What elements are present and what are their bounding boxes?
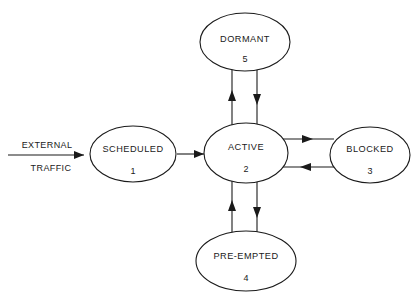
preempted-number: 4 bbox=[243, 273, 248, 283]
active-preempted-arrowhead bbox=[253, 207, 261, 218]
scheduled-label: SCHEDULED bbox=[102, 144, 163, 154]
scheduled-number: 1 bbox=[130, 166, 135, 176]
blocked-number: 3 bbox=[367, 166, 372, 176]
node-dormant[interactable]: DORMANT 5 bbox=[200, 13, 290, 71]
dormant-label: DORMANT bbox=[220, 34, 270, 44]
active-label: ACTIVE bbox=[228, 142, 264, 152]
preempted-active-arrowhead bbox=[228, 200, 236, 211]
edge-dormant-to-active bbox=[253, 69, 261, 126]
edge-blocked-to-active bbox=[283, 163, 334, 171]
external-traffic-label-line1: EXTERNAL bbox=[22, 140, 73, 150]
node-active[interactable]: ACTIVE 2 bbox=[204, 123, 288, 183]
active-ellipse[interactable] bbox=[204, 123, 288, 183]
blocked-active-arrowhead bbox=[300, 163, 311, 171]
external-traffic-label-line2: TRAFFIC bbox=[31, 163, 72, 173]
node-blocked[interactable]: BLOCKED 3 bbox=[330, 127, 410, 183]
edge-preempted-to-active bbox=[228, 181, 236, 238]
external-traffic-arrowhead bbox=[74, 151, 84, 159]
preempted-label: PRE-EMPTED bbox=[213, 251, 278, 261]
active-number: 2 bbox=[243, 164, 248, 174]
scheduled-active-arrowhead bbox=[194, 150, 204, 158]
active-blocked-arrowhead bbox=[302, 135, 313, 143]
edge-active-to-preempted bbox=[253, 181, 261, 238]
blocked-label: BLOCKED bbox=[346, 144, 393, 154]
node-preempted[interactable]: PRE-EMPTED 4 bbox=[196, 231, 296, 291]
external-traffic-arrow bbox=[8, 151, 84, 159]
edge-active-to-dormant bbox=[228, 69, 236, 126]
dormant-active-arrowhead bbox=[253, 94, 261, 105]
node-scheduled[interactable]: SCHEDULED 1 bbox=[90, 126, 176, 182]
dormant-number: 5 bbox=[242, 54, 247, 64]
active-dormant-arrowhead bbox=[228, 90, 236, 101]
diagram-canvas: EXTERNAL TRAFFIC bbox=[0, 0, 417, 296]
edge-scheduled-to-active bbox=[177, 150, 204, 158]
edge-active-to-blocked bbox=[283, 135, 334, 143]
state-diagram: EXTERNAL TRAFFIC bbox=[0, 0, 417, 296]
